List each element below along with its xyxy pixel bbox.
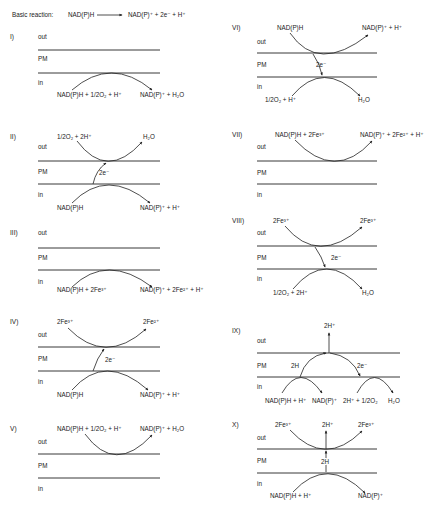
reaction-arrow-icon [295, 140, 372, 161]
panel-id: VIII) [232, 217, 244, 225]
in-product: NAD(P)⁺ + H⁺ [140, 204, 180, 212]
reaction-arrow-icon [72, 371, 148, 390]
panel-id: I) [10, 33, 14, 41]
compartment-out-label: out [38, 33, 47, 40]
compartment-pm-label: PM [257, 362, 266, 369]
panel-II: II) 1/2O₂ + 2H⁺ H₂O out PM 2e⁻ in NAD(P)… [10, 133, 180, 212]
compartment-in-label: in [257, 83, 262, 90]
out-substrate: 2Fe³⁺ [275, 421, 291, 428]
compartment-in-label: in [257, 191, 262, 198]
panel-id: II) [10, 133, 16, 141]
electron-transfer-arrow-icon [93, 349, 104, 371]
out-substrate: 1/2O₂ + 2H⁺ [57, 133, 92, 140]
basic-reaction: Basic reaction: NAD(P)H NAD(P)⁺ + 2e⁻ + … [12, 11, 186, 19]
reaction-arrow-icon [77, 141, 142, 161]
out-product: NAD(P)⁺ + H₂O [140, 425, 184, 433]
transfer-left-label: 2H [291, 362, 300, 369]
compartment-out-label: out [38, 229, 47, 236]
panel-id: III) [10, 229, 18, 237]
transfer-label: 2e⁻ [105, 356, 115, 363]
panel-id: IV) [10, 318, 18, 326]
in-substrate: NAD(P)H [57, 391, 84, 399]
in-substrate: NAD(P)H [57, 204, 84, 212]
compartment-pm-label: PM [38, 355, 47, 362]
compartment-pm-label: PM [38, 462, 47, 469]
reaction-arrow-icon [285, 226, 362, 246]
compartment-pm-label: PM [38, 254, 47, 261]
reaction-arrow-icon [293, 474, 365, 493]
reaction-arrow-icon [72, 270, 152, 287]
in-product: NAD(P)⁺ + H⁺ [140, 391, 180, 399]
reaction-arrow-icon [68, 328, 146, 347]
compartment-in-label: in [38, 191, 43, 198]
out-substrate: 2Fe³⁺ [57, 318, 73, 325]
compartment-out-label: out [257, 434, 266, 441]
reaction-arrow-icon [292, 78, 360, 97]
panel-id: IX) [232, 327, 240, 335]
transfer-right-label: 2e⁻ [357, 362, 367, 369]
in-substrate: NAD(P)H + 1/2O₂ + H⁺ [57, 91, 122, 99]
out-product: 2Fe²⁺ [143, 318, 159, 325]
out-substrate: 2Fe³⁺ [273, 217, 289, 224]
reaction-arrow-icon [72, 185, 150, 203]
panel-id: V) [10, 425, 17, 433]
compartment-in-label: in [38, 485, 43, 492]
in-product: H₂O [358, 96, 370, 103]
in-substrate-2: 2H⁺ + 1/2O₂ [343, 397, 378, 404]
in-product: NAD(P)⁺ + H₂O [140, 91, 184, 99]
compartment-out-label: out [257, 143, 266, 150]
in-product-2: H₂O [388, 397, 400, 404]
out-product: 2Fe³⁺ [360, 217, 376, 224]
redox-reaction-diagram: Basic reaction: NAD(P)H NAD(P)⁺ + 2e⁻ + … [0, 0, 427, 509]
in-substrate: 1/2O₂ + H⁺ [265, 96, 296, 103]
panel-V: V) NAD(P)H + 1/2O₂ + H⁺ NAD(P)⁺ + H₂O ou… [10, 425, 184, 492]
in-substrate: NAD(P)H + H⁺ [265, 397, 306, 405]
transfer-label: 2e⁻ [316, 61, 326, 68]
basic-reaction-product: NAD(P)⁺ + 2e⁻ + H⁺ [128, 11, 186, 19]
reaction-arrow-icon [72, 73, 152, 90]
out-substrate: NAD(P)H + 1/2O₂ + H⁺ [57, 425, 122, 433]
electron-transfer-arrow-icon [315, 247, 325, 267]
compartment-in-label: in [257, 480, 262, 487]
panel-VIII: VIII) 2Fe³⁺ 2Fe³⁺ out PM 2e⁻ in 1/2O₂ + … [232, 217, 377, 296]
compartment-pm-label: PM [257, 457, 266, 464]
panel-VII: VII) NAD(P)H + 2Fe³⁺ NAD(P)⁺ + 2Fe²⁺ + H… [232, 131, 424, 198]
transfer-label: 2H [321, 458, 330, 465]
panel-id: VII) [232, 131, 242, 139]
compartment-in-label: in [38, 278, 43, 285]
reaction-arrow-icon [357, 378, 393, 394]
compartment-in-label: in [38, 79, 43, 86]
hydrogen-transfer-arrow-icon [300, 353, 326, 377]
electron-transfer-arrow-icon [330, 353, 360, 376]
compartment-pm-label: PM [257, 169, 266, 176]
out-product: H₂O [143, 133, 155, 140]
reaction-arrow-icon [85, 434, 152, 455]
compartment-in-label: in [257, 275, 262, 282]
panel-I: I) out PM in NAD(P)H + 1/2O₂ + H⁺ NAD(P)… [10, 33, 184, 99]
in-product: NAD(P)⁺ [312, 397, 337, 405]
compartment-out-label: out [38, 438, 47, 445]
in-product: NAD(P)⁺ + 2Fe²⁺ + H⁺ [140, 286, 204, 294]
out-product: 2Fe³⁺ [358, 421, 374, 428]
in-product: H₂O [362, 289, 374, 296]
reaction-arrow-icon [282, 378, 322, 394]
reaction-arrow-icon [293, 269, 362, 289]
compartment-pm-label: PM [38, 168, 47, 175]
out-substrate: NAD(P)H + 2Fe³⁺ [275, 131, 325, 139]
panel-VI: VI) NAD(P)H NAD(P)⁺ + H⁺ out PM 2e⁻ in 1… [232, 24, 402, 103]
compartment-pm-label: PM [38, 55, 47, 62]
basic-reaction-label: Basic reaction: [12, 11, 54, 18]
compartment-pm-label: PM [257, 254, 266, 261]
out-product: NAD(P)⁺ + 2Fe²⁺ + H⁺ [360, 131, 424, 139]
panel-id: VI) [232, 24, 240, 32]
out-product: NAD(P)⁺ + H⁺ [362, 24, 402, 32]
compartment-out-label: out [257, 38, 266, 45]
basic-reaction-reactant: NAD(P)H [68, 11, 95, 19]
out-substrate: NAD(P)H [277, 24, 304, 32]
out-proton-release: 2H⁺ [324, 322, 335, 329]
compartment-out-label: out [257, 229, 266, 236]
compartment-out-label: out [38, 331, 47, 338]
panel-III: III) out PM in NAD(P)H + 2Fe³⁺ NAD(P)⁺ +… [10, 229, 204, 294]
transfer-label: 2e⁻ [331, 254, 341, 261]
compartment-out-label: out [38, 143, 47, 150]
